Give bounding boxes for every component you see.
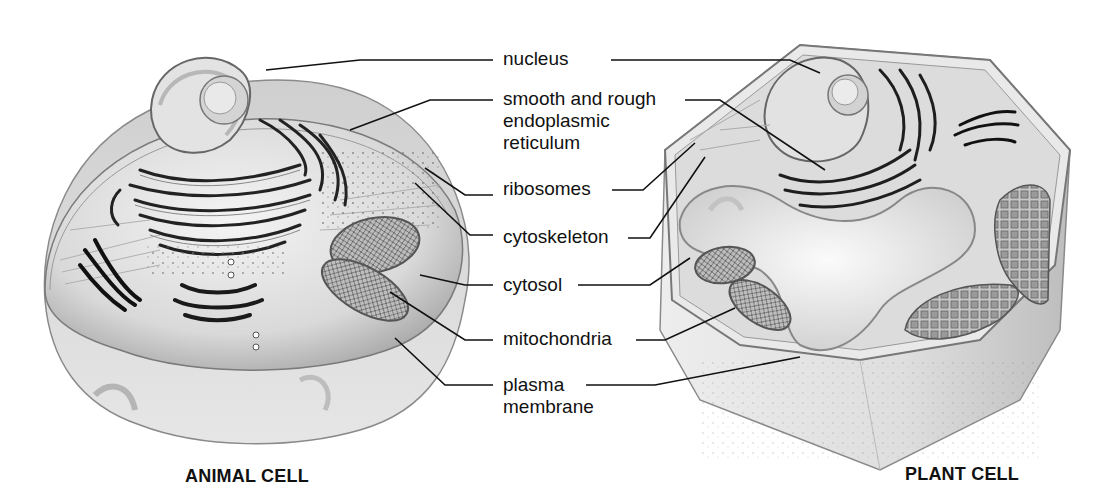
label-ribosomes: ribosomes bbox=[503, 178, 591, 200]
animal-cell-caption: ANIMAL CELL bbox=[185, 466, 309, 487]
label-endoplasmic-reticulum: smooth and rough endoplasmic reticulum bbox=[503, 88, 656, 154]
label-text: plasma bbox=[503, 374, 594, 396]
label-cytoskeleton: cytoskeleton bbox=[503, 226, 609, 248]
label-cytosol: cytosol bbox=[503, 274, 562, 296]
label-mitochondria: mitochondria bbox=[503, 328, 612, 350]
label-text: smooth and rough bbox=[503, 88, 656, 110]
label-text: endoplasmic bbox=[503, 110, 656, 132]
plant-cell bbox=[660, 45, 1070, 470]
plant-cell-caption: PLANT CELL bbox=[905, 464, 1019, 485]
label-text: cytoskeleton bbox=[503, 226, 609, 247]
label-text: cytosol bbox=[503, 274, 562, 295]
label-text: nucleus bbox=[503, 48, 569, 69]
label-text: membrane bbox=[503, 396, 594, 418]
label-text: mitochondria bbox=[503, 328, 612, 349]
cell-diagram: nucleus smooth and rough endoplasmic ret… bbox=[0, 0, 1107, 501]
label-plasma-membrane: plasma membrane bbox=[503, 374, 594, 418]
diagram-illustration bbox=[0, 0, 1107, 501]
label-text: reticulum bbox=[503, 132, 656, 154]
animal-cell bbox=[44, 58, 468, 444]
label-text: ribosomes bbox=[503, 178, 591, 199]
label-nucleus: nucleus bbox=[503, 48, 569, 70]
